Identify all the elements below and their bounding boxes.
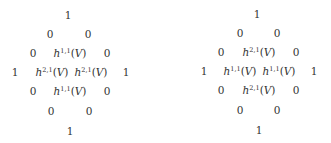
hodge-number-constant: 0 (30, 48, 37, 59)
argument: (V) (241, 65, 257, 77)
hodge-number-h21: h2,1(V) (36, 67, 69, 78)
argument: (V) (260, 46, 276, 58)
symbol-h: h (224, 65, 231, 77)
hodge-number-constant: 0 (237, 28, 244, 39)
hodge-number-h11: h1,1(V) (263, 66, 296, 77)
symbol-h: h (54, 85, 61, 97)
hodge-number-h21: h2,1(V) (75, 67, 108, 78)
superscript: 1,1 (230, 65, 240, 73)
hodge-number-constant: 0 (218, 47, 225, 58)
hodge-number-constant: 0 (85, 29, 92, 40)
superscript: 2,1 (81, 66, 91, 74)
hodge-number-h21: h2,1(V) (243, 85, 276, 96)
symbol-h: h (243, 46, 250, 58)
argument: (V) (71, 85, 87, 97)
symbol-h: h (54, 47, 61, 59)
hodge-number-constant: 1 (254, 9, 261, 20)
superscript: 1,1 (60, 47, 70, 55)
hodge-number-constant: 1 (67, 126, 74, 137)
argument: (V) (53, 66, 69, 78)
hodge-number-constant: 0 (104, 48, 111, 59)
hodge-number-constant: 0 (48, 106, 55, 117)
hodge-number-h11: h1,1(V) (224, 66, 257, 77)
hodge-number-constant: 1 (201, 66, 208, 77)
hodge-number-h11: h1,1(V) (54, 48, 87, 59)
hodge-number-constant: 0 (86, 106, 93, 117)
hodge-number-constant: 1 (12, 67, 19, 78)
hodge-number-constant: 1 (65, 10, 72, 21)
symbol-h: h (243, 84, 250, 96)
hodge-number-constant: 1 (256, 125, 263, 136)
argument: (V) (71, 47, 87, 59)
superscript: 2,1 (42, 66, 52, 74)
hodge-number-constant: 0 (293, 47, 300, 58)
hodge-number-constant: 0 (293, 85, 300, 96)
superscript: 2,1 (249, 84, 259, 92)
argument: (V) (260, 84, 276, 96)
hodge-number-h11: h1,1(V) (54, 86, 87, 97)
hodge-number-constant: 0 (30, 86, 37, 97)
superscript: 1,1 (269, 65, 279, 73)
hodge-number-h21: h2,1(V) (243, 47, 276, 58)
superscript: 2,1 (249, 46, 259, 54)
symbol-h: h (75, 66, 82, 78)
hodge-number-constant: 0 (104, 86, 111, 97)
symbol-h: h (36, 66, 43, 78)
hodge-number-constant: 0 (218, 85, 225, 96)
hodge-number-constant: 1 (123, 67, 130, 78)
hodge-number-constant: 0 (274, 105, 281, 116)
hodge-number-constant: 0 (274, 28, 281, 39)
argument: (V) (280, 65, 296, 77)
superscript: 1,1 (60, 85, 70, 93)
hodge-number-constant: 0 (47, 29, 54, 40)
symbol-h: h (263, 65, 270, 77)
hodge-number-constant: 1 (311, 66, 318, 77)
argument: (V) (92, 66, 108, 78)
hodge-number-constant: 0 (237, 105, 244, 116)
